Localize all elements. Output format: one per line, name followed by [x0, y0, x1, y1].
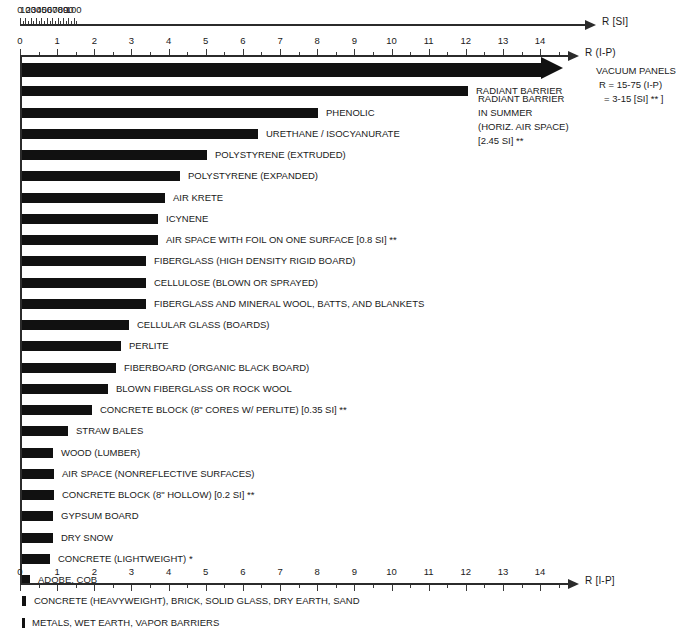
- bar-row[interactable]: RADIANT BARRIER: [0, 83, 684, 104]
- bar[interactable]: [22, 150, 207, 160]
- bar[interactable]: [22, 256, 146, 266]
- axis-tick-major: [94, 585, 95, 591]
- axis-si-caption: R [SI]: [602, 16, 628, 27]
- bar[interactable]: [22, 193, 165, 203]
- axis-tick-minor: [484, 52, 485, 55]
- axis-tick-major: [57, 585, 58, 591]
- bar-row[interactable]: PERLITE: [0, 338, 684, 359]
- bar-row[interactable]: WOOD (LUMBER): [0, 445, 684, 466]
- bar-row[interactable]: GYPSUM BOARD: [0, 508, 684, 529]
- bar-row[interactable]: FIBERBOARD (ORGANIC BLACK BOARD): [0, 360, 684, 381]
- axis-tick-major: [503, 49, 504, 55]
- bar-row[interactable]: CONCRETE BLOCK (8" HOLLOW) [0.2 SI] **: [0, 487, 684, 508]
- axis-tick-label: 2: [92, 566, 97, 577]
- axis-tick-major: [52, 18, 53, 24]
- bar-row[interactable]: DRY SNOW: [0, 530, 684, 551]
- bar[interactable]: [22, 278, 146, 288]
- bar[interactable]: [22, 129, 258, 139]
- bar[interactable]: [22, 363, 116, 373]
- axis-tick-minor: [261, 585, 262, 588]
- axis-tick-major: [206, 585, 207, 591]
- axis-tick-minor: [522, 585, 523, 588]
- bar-row[interactable]: POLYSTYRENE (EXPANDED): [0, 168, 684, 189]
- bar[interactable]: [22, 320, 129, 330]
- bar-row[interactable]: CELLULOSE (BLOWN OR SPRAYED): [0, 275, 684, 296]
- bar-arrowhead: [541, 57, 563, 79]
- bar[interactable]: [22, 214, 158, 224]
- bar[interactable]: [22, 554, 50, 564]
- bar-label: CELLULAR GLASS (BOARDS): [137, 317, 270, 332]
- bar[interactable]: [22, 426, 68, 436]
- bar[interactable]: [22, 448, 53, 458]
- bar-row[interactable]: FIBERGLASS AND MINERAL WOOL, BATTS, AND …: [0, 296, 684, 317]
- axis-tick-minor: [113, 585, 114, 588]
- bar-row[interactable]: METALS, WET EARTH, VAPOR BARRIERS: [0, 615, 684, 632]
- bar[interactable]: [22, 384, 108, 394]
- bar-row[interactable]: CONCRETE BLOCK (8" CORES W/ PERLITE) [0.…: [0, 402, 684, 423]
- bar-label: CELLULOSE (BLOWN OR SPRAYED): [154, 275, 318, 290]
- axis-tick-label: 1: [54, 35, 59, 46]
- bar[interactable]: [22, 490, 54, 500]
- axis-tick-major: [41, 18, 42, 24]
- bar[interactable]: [22, 235, 158, 245]
- bar[interactable]: [22, 63, 541, 77]
- bar-row[interactable]: CONCRETE (HEAVYWEIGHT), BRICK, SOLID GLA…: [0, 593, 684, 614]
- bar-row[interactable]: AIR SPACE (NONREFLECTIVE SURFACES): [0, 466, 684, 487]
- bar[interactable]: [22, 533, 53, 543]
- axis-ip-bottom-caption: R [I-P]: [585, 575, 615, 586]
- axis-tick-major: [20, 18, 21, 24]
- axis-tick-minor: [559, 52, 560, 55]
- axis-tick-minor: [447, 52, 448, 55]
- bar[interactable]: [22, 299, 146, 309]
- bar-label: AIR SPACE WITH FOIL ON ONE SURFACE [0.8 …: [166, 232, 397, 247]
- bar-row[interactable]: AIR SPACE WITH FOIL ON ONE SURFACE [0.8 …: [0, 232, 684, 253]
- axis-tick-label: 8: [315, 35, 320, 46]
- bar-row[interactable]: ICYNENE: [0, 211, 684, 232]
- bar[interactable]: [22, 469, 54, 479]
- axis-tick-minor: [55, 21, 56, 24]
- bar-row[interactable]: CELLULAR GLASS (BOARDS): [0, 317, 684, 338]
- bar[interactable]: [22, 511, 53, 521]
- axis-tick-label: 12: [461, 35, 472, 46]
- bar-row[interactable]: BLOWN FIBERGLASS OR ROCK WOOL: [0, 381, 684, 402]
- axis-tick-major: [466, 585, 467, 591]
- bar[interactable]: [22, 108, 318, 118]
- bar-row[interactable]: FIBERGLASS (HIGH DENSITY RIGID BOARD): [0, 253, 684, 274]
- axis-tick-major: [243, 585, 244, 591]
- axis-tick-major: [503, 585, 504, 591]
- bar-row[interactable]: POLYSTYRENE (EXTRUDED): [0, 147, 684, 168]
- bar[interactable]: [22, 618, 25, 628]
- annotation-radiant-barrier-line2: IN SUMMER: [478, 106, 532, 121]
- annotation-vacuum-panels-line3: = 3-15 [SI] ** ]: [604, 92, 663, 107]
- bar-row[interactable]: URETHANE / ISOCYANURATE: [0, 126, 684, 147]
- bar-label: BLOWN FIBERGLASS OR ROCK WOOL: [116, 381, 292, 396]
- bar[interactable]: [22, 341, 121, 351]
- bar[interactable]: [22, 86, 468, 96]
- bar-row[interactable]: PHENOLIC: [0, 105, 684, 126]
- annotation-vacuum-panels-line1: VACUUM PANELS: [596, 64, 676, 79]
- axis-tick-minor: [336, 585, 337, 588]
- axis-tick-minor: [76, 21, 77, 24]
- bar[interactable]: [22, 596, 26, 606]
- axis-tick-minor: [484, 585, 485, 588]
- axis-ip-bottom-arrowhead: [568, 579, 579, 589]
- bar-label: METALS, WET EARTH, VAPOR BARRIERS: [32, 615, 219, 630]
- axis-tick-major: [169, 585, 170, 591]
- bar-row[interactable]: AIR KRETE: [0, 190, 684, 211]
- axis-tick-minor: [336, 52, 337, 55]
- bar-row[interactable]: STRAW BALES: [0, 423, 684, 444]
- bar[interactable]: [22, 171, 180, 181]
- axis-tick-minor: [39, 585, 40, 588]
- bar-label: ICYNENE: [166, 211, 208, 226]
- axis-tick-label: 5: [203, 35, 208, 46]
- axis-tick-label: 4: [166, 566, 171, 577]
- axis-tick-label: 9: [352, 566, 357, 577]
- axis-tick-major: [429, 585, 430, 591]
- bar[interactable]: [22, 405, 92, 415]
- annotation-radiant-barrier-line1: RADIANT BARRIER: [478, 92, 564, 107]
- axis-tick-minor: [50, 21, 51, 24]
- axis-tick-major: [169, 49, 170, 55]
- bar-row[interactable]: CONCRETE (LIGHTWEIGHT) *: [0, 551, 684, 572]
- axis-tick-label: 14: [535, 566, 546, 577]
- bar-row[interactable]: [0, 62, 684, 83]
